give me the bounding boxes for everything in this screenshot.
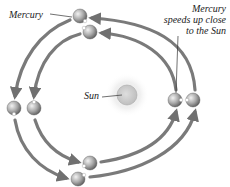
- inner-orbit-arrows: [34, 33, 176, 162]
- speed-annotation-line-1: Mercury: [164, 3, 226, 14]
- mercury-right-inner: [168, 93, 183, 107]
- sun-label: Sun: [84, 90, 99, 101]
- mercury-bottom-inner: [82, 156, 97, 170]
- arrow-left-to-bottom-inner: [35, 120, 78, 162]
- mercury-bottom-outer: [71, 172, 86, 186]
- speed-annotation-line-3: to the Sun: [164, 25, 226, 36]
- speed-annotation: Mercury speeds up close to the Sun: [164, 3, 226, 36]
- mercury-orbit-diagram: Mercury Mercury speeds up close to the S…: [0, 0, 230, 187]
- arrow-left-to-bottom-outer: [15, 120, 66, 178]
- outer-orbit-arrows: [15, 18, 195, 178]
- mercury-left-inner: [27, 100, 41, 115]
- mercury-top-outer: [73, 9, 87, 23]
- mercury-right-outer: [185, 93, 200, 107]
- mercury-top-inner: [82, 25, 97, 39]
- arrow-top-to-left-outer: [15, 20, 70, 96]
- speed-annotation-line-2: speeds up close: [164, 14, 226, 25]
- arrow-bottom-to-right-outer: [90, 112, 195, 177]
- arrow-top-to-left-inner: [34, 34, 80, 96]
- mercury-left-outer: [7, 101, 21, 116]
- mercury-leader-line: [50, 14, 72, 17]
- sun: [105, 73, 149, 117]
- mercury-label: Mercury: [9, 9, 43, 20]
- arrow-bottom-to-right-inner: [101, 112, 176, 162]
